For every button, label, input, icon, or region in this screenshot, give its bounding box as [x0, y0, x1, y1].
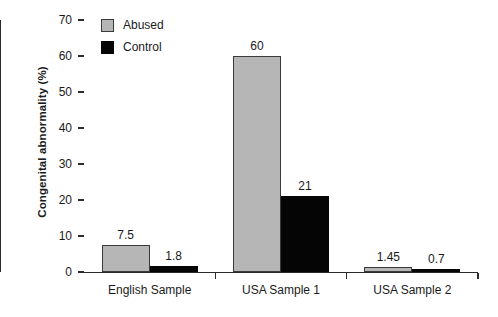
legend-label-abused: Abused	[123, 19, 164, 31]
bar-value-control-2: 21	[269, 180, 341, 192]
bar-abused-2[interactable]	[233, 56, 281, 272]
bar-value-abused-1: 7.5	[90, 229, 162, 241]
x-tick-2	[346, 273, 347, 279]
bar-value-abused-2: 60	[221, 40, 293, 52]
legend-swatch-abused-icon	[101, 19, 114, 32]
y-tick-label-30: 30	[32, 158, 72, 170]
x-axis-line	[84, 272, 478, 273]
legend-item-control: Control	[101, 37, 164, 57]
y-tick-label-60: 60	[32, 50, 72, 62]
legend-label-control: Control	[123, 41, 162, 53]
y-tick-label-70: 70	[32, 14, 72, 26]
y-axis-line	[0, 20, 1, 272]
legend-item-abused: Abused	[101, 15, 164, 35]
bar-abused-3[interactable]	[364, 267, 412, 272]
x-tick-1	[215, 273, 216, 279]
bar-control-1[interactable]	[150, 266, 198, 272]
y-tick-label-0: 0	[32, 266, 72, 278]
x-tick-3	[477, 273, 478, 279]
bar-control-2[interactable]	[281, 196, 329, 272]
bar-value-control-3: 0.7	[400, 253, 472, 265]
y-tick-label-10: 10	[32, 230, 72, 242]
bar-chart: Congenital abnormality (%) 0102030405060…	[0, 0, 498, 317]
category-label-3: USA Sample 2	[342, 283, 482, 297]
category-label-2: USA Sample 1	[211, 283, 351, 297]
y-tick-label-20: 20	[32, 194, 72, 206]
bar-control-3[interactable]	[412, 269, 460, 272]
chart-legend: Abused Control	[101, 15, 164, 59]
category-label-1: English Sample	[80, 283, 220, 297]
bar-value-control-1: 1.8	[138, 250, 210, 262]
y-tick-label-40: 40	[32, 122, 72, 134]
legend-swatch-control-icon	[101, 41, 114, 54]
y-tick-label-50: 50	[32, 86, 72, 98]
